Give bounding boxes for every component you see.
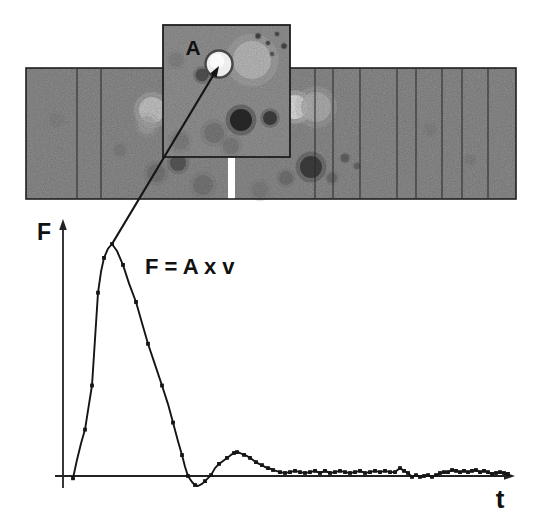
force-curve-markers [71, 242, 510, 487]
data-point-marker [313, 469, 317, 473]
data-point-marker [283, 471, 287, 475]
data-point-marker [478, 470, 482, 474]
y-axis-label: F [37, 219, 51, 245]
data-point-marker [402, 469, 406, 473]
data-point-marker [442, 470, 446, 474]
data-point-marker [348, 471, 352, 475]
data-point-marker [422, 474, 426, 478]
data-point-marker [288, 470, 292, 474]
force-time-graph: F t F = A x v [37, 219, 515, 514]
data-point-marker [343, 470, 347, 474]
data-point-marker [160, 384, 164, 388]
data-point-marker [388, 470, 392, 474]
data-point-marker [426, 473, 430, 477]
data-point-marker [498, 470, 502, 474]
data-point-marker [134, 300, 138, 304]
data-point-marker [373, 469, 377, 473]
data-point-marker [353, 470, 357, 474]
data-point-marker [323, 469, 327, 473]
data-point-marker [474, 468, 478, 472]
data-point-marker [102, 256, 106, 260]
data-point-marker [318, 471, 322, 475]
data-point-marker [434, 473, 438, 477]
data-point-marker [454, 469, 458, 473]
data-point-marker [180, 453, 184, 457]
data-point-marker [338, 469, 342, 473]
data-point-marker [438, 471, 442, 475]
data-point-marker [378, 470, 382, 474]
data-point-marker [96, 291, 100, 295]
data-point-marker [358, 469, 362, 473]
data-point-marker [254, 460, 258, 464]
data-point-marker [486, 470, 490, 474]
data-point-marker [418, 475, 422, 479]
data-point-marker [146, 342, 150, 346]
data-point-marker [383, 469, 387, 473]
data-point-marker [271, 468, 275, 472]
data-point-marker [450, 468, 454, 472]
data-point-marker [490, 472, 494, 476]
data-point-marker [225, 456, 229, 460]
x-axis-label: t [496, 484, 505, 514]
data-point-marker [466, 470, 470, 474]
data-point-marker [235, 450, 239, 454]
inset-label-a: A [185, 36, 200, 59]
data-point-marker [308, 470, 312, 474]
y-axis-arrowhead-icon [59, 219, 67, 230]
data-point-marker [333, 470, 337, 474]
figure-canvas: A F t F = A x v [0, 0, 540, 530]
data-point-marker [482, 469, 486, 473]
force-curve [73, 244, 508, 486]
data-point-marker [303, 471, 307, 475]
data-point-marker [393, 470, 397, 474]
data-point-marker [398, 466, 402, 470]
data-point-marker [462, 469, 466, 473]
data-point-marker [110, 242, 114, 246]
data-point-marker [430, 475, 434, 479]
data-point-marker [71, 476, 75, 480]
data-point-marker [363, 471, 367, 475]
data-point-marker [209, 473, 213, 477]
data-point-marker [278, 470, 282, 474]
data-point-marker [260, 463, 264, 467]
vesicle-a-highlight [210, 54, 225, 69]
data-point-marker [266, 466, 270, 470]
data-point-marker [506, 472, 510, 476]
data-point-marker [446, 470, 450, 474]
data-point-marker [494, 471, 498, 475]
figure-page: A F t F = A x v [0, 0, 540, 530]
data-point-marker [203, 479, 207, 483]
data-point-marker [470, 469, 474, 473]
data-point-marker [217, 462, 221, 466]
data-point-marker [328, 471, 332, 475]
data-point-marker [186, 474, 190, 478]
inset-grain-texture [163, 25, 290, 157]
equation-label: F = A x v [145, 254, 235, 279]
data-point-marker [121, 263, 125, 267]
data-point-marker [458, 470, 462, 474]
inset-panel: A [163, 25, 290, 157]
data-point-marker [298, 470, 302, 474]
data-point-marker [193, 483, 197, 487]
data-point-marker [171, 421, 175, 425]
data-point-marker [90, 384, 94, 388]
data-point-marker [502, 471, 506, 475]
data-point-marker [406, 471, 410, 475]
data-point-marker [410, 475, 414, 479]
data-point-marker [368, 470, 372, 474]
data-point-marker [414, 473, 418, 477]
data-point-marker [293, 469, 297, 473]
data-point-marker [248, 456, 252, 460]
data-point-marker [242, 453, 246, 457]
data-point-marker [83, 428, 87, 432]
